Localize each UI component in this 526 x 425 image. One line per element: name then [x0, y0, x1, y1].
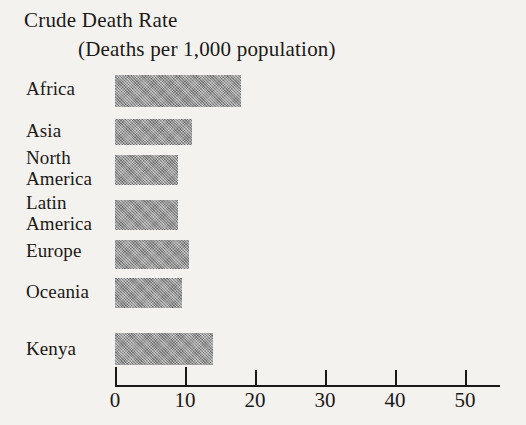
- bar: [115, 200, 178, 230]
- x-axis-tick-label: 30: [300, 388, 350, 413]
- x-axis-tick: [465, 370, 467, 385]
- bar: [115, 155, 178, 185]
- bar: [115, 119, 192, 145]
- x-axis-tick: [325, 370, 327, 385]
- x-axis-line: [115, 385, 500, 387]
- category-label: Latin America: [26, 192, 92, 234]
- plot-area: AfricaAsiaNorth AmericaLatin AmericaEuro…: [0, 0, 526, 425]
- bar: [115, 278, 182, 308]
- bar: [115, 75, 241, 107]
- x-axis-tick-label: 20: [230, 388, 280, 413]
- x-axis-tick-label: 10: [160, 388, 210, 413]
- bar: [115, 240, 189, 269]
- category-label: Europe: [26, 240, 81, 261]
- x-axis-tick-label: 50: [440, 388, 490, 413]
- category-label: North America: [26, 147, 92, 189]
- category-label: Africa: [26, 78, 75, 99]
- x-axis-tick: [115, 367, 117, 385]
- category-label: Oceania: [26, 281, 89, 302]
- category-label: Kenya: [26, 338, 76, 359]
- category-label: Asia: [26, 120, 61, 141]
- crude-death-rate-chart: Crude Death Rate (Deaths per 1,000 popul…: [0, 0, 526, 425]
- x-axis-tick-label: 40: [370, 388, 420, 413]
- x-axis-tick: [255, 370, 257, 385]
- bar: [115, 333, 213, 365]
- x-axis-tick: [395, 370, 397, 385]
- x-axis-tick: [185, 367, 187, 385]
- x-axis-tick-label: 0: [90, 388, 140, 413]
